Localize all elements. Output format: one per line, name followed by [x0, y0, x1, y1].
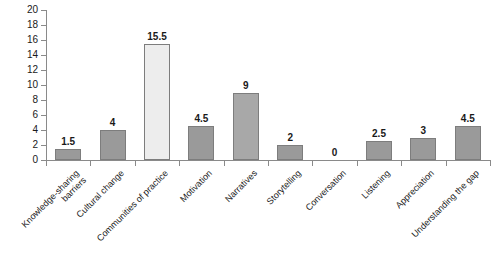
x-axis-category-label: Conversation: [303, 168, 348, 213]
y-axis-tick-label-text: 12: [2, 65, 38, 75]
y-axis-tick-label-text: 4: [2, 125, 38, 135]
y-axis-tick-label-text: 20: [2, 5, 38, 15]
x-axis-tick: [90, 161, 91, 166]
bar-value-label: 15.5: [147, 31, 166, 42]
bar: [233, 93, 259, 161]
x-axis-category-label: Storytelling: [265, 168, 304, 207]
bar: [366, 141, 392, 160]
bar: [55, 149, 81, 160]
x-axis-category-label-line: Motivation: [178, 168, 214, 204]
x-axis-tick: [224, 161, 225, 166]
bar-value-label: 3: [421, 125, 427, 136]
x-axis-tick: [357, 161, 358, 166]
bar: [277, 145, 303, 160]
y-axis-tick-label-text: 10: [2, 80, 38, 90]
x-axis-tick: [312, 161, 313, 166]
bar: [455, 126, 481, 160]
y-axis-tick-label-text: 6: [2, 110, 38, 120]
y-axis-tick-label-text: 2: [2, 140, 38, 150]
bar-chart: 02468101214161820 1.5415.54.59202.534.5 …: [0, 0, 501, 267]
x-axis-category-label-line: Appreciation: [394, 168, 436, 210]
x-axis-tick: [46, 161, 47, 166]
bar: [144, 44, 170, 160]
bar-value-label: 2.5: [372, 128, 386, 139]
bar: [188, 126, 214, 160]
bar-value-label: 4.5: [461, 113, 475, 124]
bar: [410, 138, 436, 161]
bar-value-label: 4: [110, 117, 116, 128]
x-axis-category-label: Listening: [360, 168, 393, 201]
x-axis-category-label: Knowledge-sharingbarriers: [20, 168, 89, 237]
bar-value-label: 2: [287, 132, 293, 143]
bar-value-label: 4.5: [194, 113, 208, 124]
y-axis-tick-label-text: 16: [2, 35, 38, 45]
x-axis-category-label-line: Storytelling: [265, 168, 304, 207]
bar-value-label: 9: [243, 80, 249, 91]
bars-layer: [46, 10, 490, 160]
bar: [100, 130, 126, 160]
x-axis-tick: [490, 161, 491, 166]
x-axis-category-label: Motivation: [178, 168, 214, 204]
x-axis-category-label-line: Conversation: [303, 168, 348, 213]
y-axis-tick-label-text: 8: [2, 95, 38, 105]
bar-value-label: 1.5: [61, 136, 75, 147]
x-axis-tick: [268, 161, 269, 166]
bar-value-label: 0: [332, 147, 338, 158]
x-axis-tick: [401, 161, 402, 166]
x-axis-category-label: Narratives: [223, 168, 259, 204]
y-axis-tick-label-text: 14: [2, 50, 38, 60]
y-axis-tick-label-text: 18: [2, 20, 38, 30]
x-axis-category-label-line: Knowledge-sharing: [20, 168, 82, 230]
x-axis-category-label-line: Narratives: [223, 168, 259, 204]
x-axis-tick: [446, 161, 447, 166]
y-axis-tick-label-text: 0: [2, 155, 38, 165]
x-axis-category-label-line: Listening: [360, 168, 393, 201]
x-axis-tick: [179, 161, 180, 166]
x-axis-tick: [135, 161, 136, 166]
x-axis-category-label: Appreciation: [394, 168, 436, 210]
